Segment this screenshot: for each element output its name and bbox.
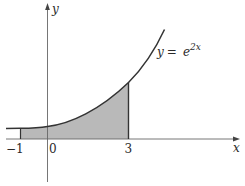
exponential-curve: [6, 30, 165, 129]
tick-label-neg1: −1: [6, 142, 24, 156]
tick-label-3: 3: [125, 142, 133, 156]
function-label-exponent: 2x: [189, 42, 201, 52]
function-label: y = e 2x: [156, 42, 201, 59]
function-label-eq: =: [163, 45, 181, 59]
x-axis-label: x: [233, 141, 240, 155]
function-plot: y x −1 0 3 y = e 2x: [0, 0, 245, 186]
y-axis-label: y: [51, 2, 59, 16]
y-axis-arrow-icon: [45, 3, 50, 10]
shaded-region: [21, 83, 129, 140]
tick-label-0: 0: [49, 142, 57, 156]
